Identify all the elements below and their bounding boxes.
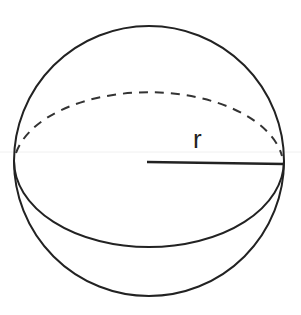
equator-front-arc	[14, 161, 284, 247]
radius-label: r	[193, 124, 202, 154]
sphere-figure: r	[0, 0, 301, 315]
radius-line	[147, 162, 284, 164]
sphere-diagram: r	[0, 0, 301, 315]
equator-back-dashed-arc	[16, 92, 282, 156]
